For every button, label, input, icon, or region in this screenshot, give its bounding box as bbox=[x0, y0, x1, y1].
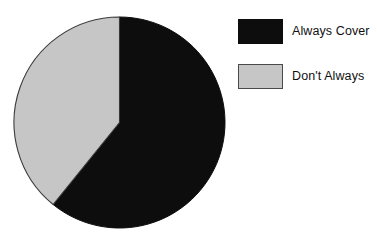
legend-label-dont-always: Don't Always bbox=[292, 70, 364, 83]
chart-legend: Always Cover Don't Always bbox=[238, 19, 377, 109]
legend-item-dont-always[interactable]: Don't Always bbox=[238, 64, 377, 89]
legend-label-always-cover: Always Cover bbox=[292, 25, 370, 38]
pie-chart-figure: Always Cover Don't Always bbox=[0, 0, 377, 242]
legend-item-always-cover[interactable]: Always Cover bbox=[238, 19, 377, 44]
pie-chart-graphic bbox=[10, 13, 229, 232]
legend-swatch-dont-always-icon bbox=[238, 64, 283, 89]
legend-swatch-always-cover-icon bbox=[238, 19, 283, 44]
